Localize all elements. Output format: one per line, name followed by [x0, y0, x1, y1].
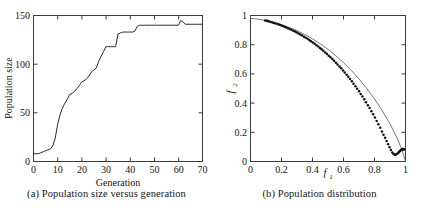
- panel-b-xtick-1: 1: [403, 164, 408, 175]
- panel-b-ytick-0.4: 0.4: [235, 98, 248, 109]
- panel-b-reference-curve: [251, 18, 406, 161]
- data-point: [347, 76, 350, 79]
- data-point: [375, 120, 378, 123]
- panel-b-ytick-1: 1: [242, 10, 247, 21]
- panel-a-axes-frame: [34, 16, 203, 162]
- panel-a-ytick-150: 150: [15, 10, 30, 21]
- panel-a-ytick-50: 50: [20, 107, 30, 118]
- data-point: [388, 146, 391, 149]
- panel-b-x-axis-title-sub: 1: [329, 173, 333, 181]
- panel-a-plot: 150 100 50 0 0 10 20 30 40 50 60 70 Popu…: [0, 0, 213, 190]
- panel-b-scatter-points: [264, 19, 405, 156]
- data-point: [370, 110, 373, 113]
- data-point: [403, 148, 406, 151]
- data-point: [349, 78, 352, 81]
- panel-a-xtick-70: 70: [198, 164, 208, 175]
- panel-a-y-ticks: [34, 16, 203, 162]
- panel-b-xtick-0.8: 0.8: [368, 164, 381, 175]
- data-point: [372, 113, 375, 116]
- data-point: [356, 87, 359, 90]
- panel-b-xtick-0: 0: [248, 164, 253, 175]
- panel-a-xtick-0: 0: [31, 164, 36, 175]
- panel-b-ytick-0.2: 0.2: [235, 127, 248, 138]
- figure-container: 150 100 50 0 0 10 20 30 40 50 60 70 Popu…: [0, 0, 426, 214]
- panel-a-xtick-20: 20: [77, 164, 87, 175]
- panel-b-x-axis-title-base: f: [324, 167, 329, 178]
- data-point: [333, 60, 336, 63]
- panel-a-y-axis-title: Population size: [3, 57, 14, 119]
- panel-a-xtick-30: 30: [101, 164, 111, 175]
- panel-b-ytick-0: 0: [242, 156, 247, 167]
- data-point: [381, 130, 384, 133]
- panel-a-xtick-60: 60: [174, 164, 184, 175]
- data-point: [368, 107, 371, 110]
- panel-b-xtick-0.2: 0.2: [275, 164, 288, 175]
- panel-b-axes-frame: [251, 16, 406, 162]
- panel-b-y-axis-title: f 2: [225, 83, 239, 94]
- panel-a-population-size: 150 100 50 0 0 10 20 30 40 50 60 70 Popu…: [0, 0, 213, 214]
- data-point: [329, 56, 332, 59]
- data-point: [359, 93, 362, 96]
- data-point: [335, 61, 338, 64]
- panel-b-y-ticks: [251, 16, 406, 162]
- data-point: [387, 143, 390, 146]
- panel-a-ytick-100: 100: [15, 59, 30, 70]
- data-point: [361, 95, 364, 98]
- data-point: [379, 127, 382, 129]
- panel-b-x-ticks: [251, 16, 406, 162]
- panel-b-ytick-0.8: 0.8: [235, 39, 248, 50]
- panel-a-x-ticks: [34, 16, 203, 162]
- data-point: [377, 123, 380, 126]
- data-point: [345, 73, 348, 76]
- panel-a-x-axis-title: Generation: [96, 177, 140, 188]
- panel-a-data-line: [34, 20, 203, 153]
- panel-b-ytick-0.6: 0.6: [235, 68, 248, 79]
- panel-a-xtick-10: 10: [53, 164, 63, 175]
- panel-a-ytick-0: 0: [25, 156, 30, 167]
- panel-b-caption: (b) Population distribution: [213, 188, 426, 199]
- panel-b-plot: 1 0.8 0.6 0.4 0.2 0 0 0.2 0.4 0.6 0.8 1 …: [213, 0, 426, 190]
- data-point: [351, 80, 354, 83]
- panel-b-x-axis-title: f 1: [324, 167, 333, 181]
- panel-b-xtick-0.6: 0.6: [337, 164, 350, 175]
- panel-a-caption: (a) Population size versus generation: [0, 188, 213, 199]
- panel-b-y-axis-title-sub: 2: [231, 83, 239, 87]
- data-point: [338, 65, 341, 68]
- data-point: [365, 101, 368, 104]
- panel-a-xtick-40: 40: [125, 164, 135, 175]
- data-point: [384, 137, 387, 140]
- data-point: [336, 63, 339, 66]
- data-point: [343, 71, 346, 74]
- data-point: [390, 149, 393, 152]
- data-point: [367, 104, 370, 107]
- data-point: [342, 69, 345, 72]
- data-point: [385, 140, 388, 143]
- data-point: [354, 85, 357, 88]
- data-point: [374, 116, 377, 119]
- data-point: [340, 67, 343, 70]
- data-point: [352, 82, 355, 85]
- panel-a-xtick-50: 50: [150, 164, 160, 175]
- data-point: [382, 133, 385, 136]
- panel-b-xtick-0.4: 0.4: [306, 164, 319, 175]
- data-point: [358, 90, 361, 93]
- panel-b-population-distribution: 1 0.8 0.6 0.4 0.2 0 0 0.2 0.4 0.6 0.8 1 …: [213, 0, 426, 214]
- panel-b-y-axis-title-base: f: [225, 88, 236, 93]
- data-point: [363, 98, 366, 101]
